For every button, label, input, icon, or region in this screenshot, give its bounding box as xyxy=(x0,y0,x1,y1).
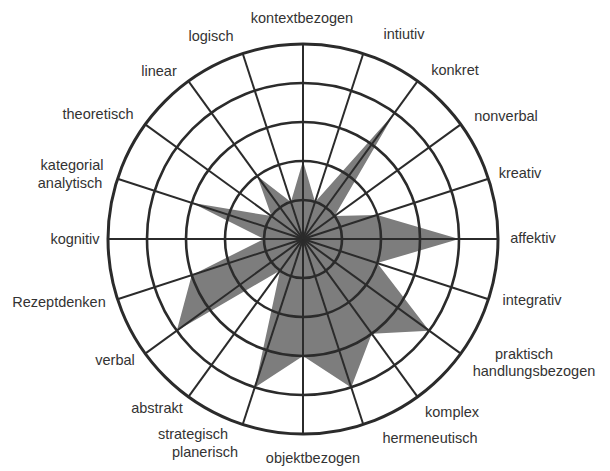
axis-label: kategorial xyxy=(32,157,112,174)
axis-label: kontextbezogen xyxy=(237,10,367,27)
axis-label: Rezeptdenken xyxy=(4,294,114,311)
axis-label: komplex xyxy=(417,404,487,421)
axis-label: theoretisch xyxy=(53,106,143,123)
axis-label: objektbezogen xyxy=(258,450,368,467)
axis-label: konkret xyxy=(425,62,485,79)
axis-label: kognitiv xyxy=(40,231,110,248)
axis-label: kreativ xyxy=(490,165,550,182)
axis-label: analytisch xyxy=(30,175,110,192)
axis-label: praktisch xyxy=(484,346,564,363)
axis-label: intiutiv xyxy=(374,26,434,43)
axis-label: affektiv xyxy=(501,230,565,247)
axis-label: integrativ xyxy=(496,292,568,309)
axis-label: abstrakt xyxy=(122,400,192,417)
axis-label: logisch xyxy=(181,28,241,45)
axis-label: hermeneutisch xyxy=(375,430,485,447)
grid-spokes xyxy=(108,44,498,434)
axis-label: linear xyxy=(129,63,189,80)
axis-label: verbal xyxy=(85,352,145,369)
spoke-2 xyxy=(303,81,418,239)
spoke-17 xyxy=(145,124,303,239)
axis-label: handlungsbezogen xyxy=(464,363,604,380)
axis-label: nonverbal xyxy=(466,108,546,125)
axis-label: planerisch xyxy=(160,444,250,461)
axis-label: strategisch xyxy=(148,426,238,443)
